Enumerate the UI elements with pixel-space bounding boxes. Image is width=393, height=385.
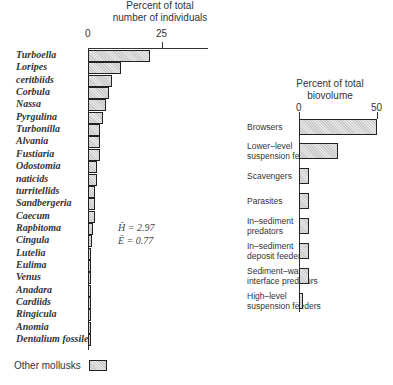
right-bar xyxy=(299,168,309,184)
left-category-label: Venus xyxy=(16,271,41,282)
left-bar xyxy=(88,198,95,210)
left-bar xyxy=(88,50,150,62)
left-tick-mark-25 xyxy=(162,42,163,49)
right-bar xyxy=(299,293,303,309)
right-title-line2: biovolume xyxy=(280,90,380,102)
left-category-label: Dentalium fossile xyxy=(16,333,89,344)
left-title-line2: number of individuals xyxy=(95,12,225,24)
left-category-label: Cardiids xyxy=(16,296,51,307)
left-bar xyxy=(88,99,106,111)
left-category-label: Eulima xyxy=(16,259,47,270)
right-category-label: In–sedimentdeposit feeders xyxy=(247,241,305,261)
left-bar xyxy=(89,360,107,371)
left-category-label: Corbula xyxy=(16,86,50,97)
right-category-label: Scavengers xyxy=(247,171,292,181)
left-category-label: Lutelia xyxy=(16,247,45,258)
left-bar xyxy=(88,235,92,247)
left-category-label: ceritbiids xyxy=(16,74,54,85)
right-category-label: Parasites xyxy=(247,196,282,206)
left-bar xyxy=(88,297,91,309)
left-bar xyxy=(88,285,91,297)
left-category-label: turritellids xyxy=(16,185,59,196)
left-bar xyxy=(88,112,103,124)
left-title-line1: Percent of total xyxy=(95,0,225,12)
left-category-label: Alvania xyxy=(16,135,48,146)
left-bar xyxy=(88,248,91,260)
left-category-label: Ringicula xyxy=(16,308,57,319)
right-bar xyxy=(299,193,309,209)
left-category-label: Anadara xyxy=(16,284,52,295)
left-chart-title: Percent of total number of individuals xyxy=(95,0,225,24)
right-chart-title: Percent of total biovolume xyxy=(280,78,380,102)
right-title-line1: Percent of total xyxy=(280,78,380,90)
left-category-label: naticids xyxy=(16,173,48,184)
right-tick-mark-50 xyxy=(377,112,378,119)
left-category-label: Fustiaria xyxy=(16,148,54,159)
left-bar xyxy=(88,87,109,99)
left-bar xyxy=(88,272,91,284)
right-bar xyxy=(299,268,309,284)
left-category-label: Loripes xyxy=(16,61,47,72)
left-bar xyxy=(88,149,100,161)
left-bar xyxy=(88,124,100,136)
left-category-label: Rapbitoma xyxy=(16,222,61,233)
left-bar xyxy=(88,186,95,198)
left-bar xyxy=(88,223,93,235)
left-x-axis xyxy=(88,48,208,49)
left-bar xyxy=(88,334,91,346)
right-category-label: In–sedimentpredators xyxy=(247,216,293,236)
left-tick-0: 0 xyxy=(85,28,91,39)
left-category-label: Turboella xyxy=(16,49,56,60)
left-category-label: Nassa xyxy=(16,98,41,109)
left-bar xyxy=(88,75,112,87)
left-bar xyxy=(88,62,121,74)
left-category-label: Pyrgulina xyxy=(16,111,57,122)
left-bar xyxy=(88,322,91,334)
left-category-label: Odostomia xyxy=(16,160,60,171)
left-category-label: Anomia xyxy=(16,321,49,332)
left-bar xyxy=(88,136,100,148)
left-category-label: Other mollusks xyxy=(14,361,81,371)
right-category-label: Browsers xyxy=(247,122,282,132)
stat-h: H̄ = 2.97 xyxy=(118,222,154,233)
left-bar xyxy=(88,161,97,173)
right-category-label: High–levelsuspension fėeders xyxy=(247,291,321,311)
right-bar xyxy=(299,243,309,259)
left-bar xyxy=(88,260,91,272)
left-category-label: Sandbergeria xyxy=(16,197,72,208)
left-tick-25: 25 xyxy=(156,28,167,39)
right-bar xyxy=(299,218,309,234)
left-category-label: Turbonilla xyxy=(16,123,60,134)
left-bar xyxy=(88,211,95,223)
left-bar xyxy=(88,309,91,321)
right-bar xyxy=(299,119,377,135)
left-bar xyxy=(88,174,97,186)
stat-e: Ē = 0.77 xyxy=(118,235,153,246)
left-category-label: Cingula xyxy=(16,234,49,245)
right-bar xyxy=(299,143,338,159)
left-category-label: Caecum xyxy=(16,210,50,221)
